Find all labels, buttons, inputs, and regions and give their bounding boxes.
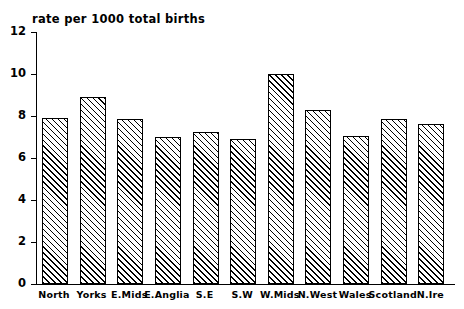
bar-slot (193, 33, 219, 284)
bar (343, 136, 369, 284)
y-axis-tick-label: 8 (18, 109, 26, 122)
bar (305, 110, 331, 284)
y-axis-tick: 0 (31, 284, 37, 285)
chart-title: rate per 1000 total births (32, 12, 205, 26)
y-axis-tick-label: 4 (18, 193, 26, 206)
bar-slot (117, 33, 143, 284)
bar-slot (80, 33, 106, 284)
bar-slot (418, 33, 444, 284)
plot-area: 024681012 (36, 33, 455, 285)
bar-slot (381, 33, 407, 284)
bar (80, 97, 106, 284)
bar (117, 119, 143, 284)
bar-slot (155, 33, 181, 284)
bar (381, 119, 407, 284)
bar (155, 137, 181, 284)
bar-slot (343, 33, 369, 284)
bar-slot (230, 33, 256, 284)
bar (193, 132, 219, 284)
bar-slot (305, 33, 331, 284)
bar (42, 118, 68, 284)
x-axis-line (36, 284, 455, 285)
bar-slot (268, 33, 294, 284)
bar (418, 124, 444, 284)
y-axis-tick-label: 12 (10, 25, 26, 38)
y-axis-tick-label: 6 (18, 151, 26, 164)
bar (230, 139, 256, 284)
y-axis-tick-label: 2 (18, 235, 26, 248)
bar-chart-figure: rate per 1000 total births 024681012 Nor… (0, 0, 464, 309)
bar-slot (42, 33, 68, 284)
x-axis-tick-labels: NorthYorksE.MidsE.AngliaS.ES.WW.MidsN.We… (36, 289, 455, 305)
x-axis-tick-label: N.Ire (400, 289, 460, 301)
bar-group (37, 33, 455, 284)
bar (268, 74, 294, 284)
y-axis-tick-label: 10 (10, 67, 26, 80)
